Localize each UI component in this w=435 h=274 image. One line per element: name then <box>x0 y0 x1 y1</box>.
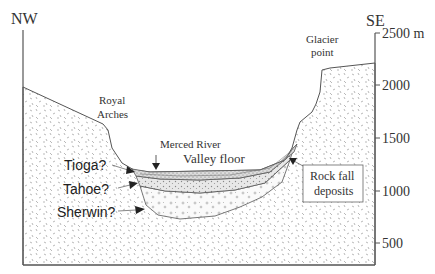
merced-river-arrow <box>152 155 160 170</box>
royal-arches-label-2: Arches <box>97 108 128 120</box>
tick-label-1500: 1500 <box>382 131 410 146</box>
tick-label-2500: 2500 m <box>382 26 425 41</box>
axis-ticks <box>375 33 380 243</box>
glacier-point-label-1: Glacier <box>306 33 339 45</box>
tick-label-2000: 2000 <box>382 78 410 93</box>
valley-floor-label: Valley floor <box>183 151 245 166</box>
merced-river-label: Merced River <box>160 138 221 150</box>
rock-fall-label-2: deposits <box>314 184 354 198</box>
tioga-label: Tioga? <box>64 157 107 173</box>
royal-arches-label-1: Royal <box>99 94 125 106</box>
sherwin-label: Sherwin? <box>57 204 116 220</box>
glacier-point-label-2: point <box>311 46 334 58</box>
tick-label-500: 500 <box>382 236 403 251</box>
direction-nw: NW <box>11 10 39 27</box>
direction-se: SE <box>366 12 385 29</box>
yosemite-valley-cross-section: 2500 m 2000 1500 1000 500 NW SE Royal Ar… <box>0 0 435 274</box>
tick-label-1000: 1000 <box>382 184 410 199</box>
rock-fall-label-1: Rock fall <box>310 169 355 183</box>
tahoe-label: Tahoe? <box>63 181 109 197</box>
